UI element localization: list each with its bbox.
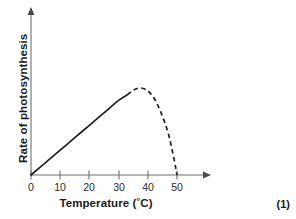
x-tick-label-0: 0 [28, 181, 34, 193]
photosynthesis-temperature-figure: 0 10 20 30 40 50 Temperature (°C) Rate o… [0, 0, 296, 219]
y-axis-arrow-icon [28, 7, 35, 15]
x-axis-title-suffix: C) [140, 197, 152, 209]
x-axis-arrow-icon [203, 172, 211, 179]
x-tick-label-40: 40 [142, 181, 154, 193]
y-axis-title: Rate of photosynthesis [17, 34, 29, 163]
curve-solid-segment [31, 95, 127, 175]
x-axis-title-main: Temperature ( [59, 197, 136, 209]
marks-annotation: (1) [277, 198, 290, 210]
x-tick-label-50: 50 [171, 181, 183, 193]
x-tick-label-10: 10 [54, 181, 66, 193]
x-tick-label-30: 30 [113, 181, 125, 193]
chart-plot-area: 0 10 20 30 40 50 [0, 0, 296, 219]
x-tick-label-20: 20 [83, 181, 95, 193]
x-axis-title: Temperature (°C) [0, 196, 212, 209]
curve-dashed-segment [127, 88, 177, 175]
